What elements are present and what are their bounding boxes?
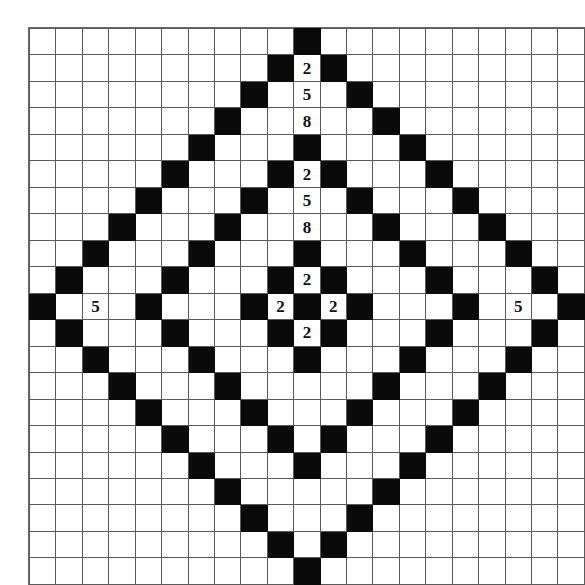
grid-cell-empty[interactable] — [294, 426, 320, 452]
grid-cell-empty[interactable] — [558, 55, 584, 81]
grid-cell-filled[interactable] — [320, 55, 346, 81]
grid-cell-empty[interactable] — [320, 240, 346, 266]
grid-cell-empty[interactable] — [532, 293, 558, 319]
grid-cell-empty[interactable] — [347, 531, 373, 557]
grid-cell-empty[interactable] — [426, 134, 452, 160]
grid-cell-empty[interactable] — [532, 240, 558, 266]
grid-cell-empty[interactable] — [30, 426, 56, 452]
grid-cell-empty[interactable] — [109, 161, 135, 187]
grid-cell-empty[interactable] — [214, 29, 240, 55]
grid-cell-filled[interactable] — [214, 373, 240, 399]
grid-cell-empty[interactable] — [320, 134, 346, 160]
grid-cell-empty[interactable] — [135, 531, 161, 557]
grid-cell-filled[interactable] — [399, 452, 425, 478]
grid-cell-empty[interactable] — [82, 426, 108, 452]
grid-cell-label[interactable]: 2 — [267, 293, 293, 319]
grid-cell-empty[interactable] — [267, 187, 293, 213]
grid-cell-filled[interactable] — [399, 346, 425, 372]
grid-cell-empty[interactable] — [56, 478, 82, 504]
grid-cell-empty[interactable] — [135, 558, 161, 584]
grid-cell-empty[interactable] — [452, 478, 478, 504]
grid-cell-empty[interactable] — [241, 531, 267, 557]
grid-cell-filled[interactable] — [267, 161, 293, 187]
grid-cell-empty[interactable] — [162, 558, 188, 584]
grid-cell-empty[interactable] — [479, 505, 505, 531]
grid-cell-empty[interactable] — [320, 187, 346, 213]
grid-cell-empty[interactable] — [162, 240, 188, 266]
grid-cell-empty[interactable] — [426, 478, 452, 504]
grid-cell-empty[interactable] — [267, 214, 293, 240]
grid-cell-empty[interactable] — [320, 29, 346, 55]
grid-cell-empty[interactable] — [82, 478, 108, 504]
grid-cell-empty[interactable] — [399, 478, 425, 504]
grid-cell-empty[interactable] — [162, 214, 188, 240]
grid-cell-empty[interactable] — [479, 55, 505, 81]
grid-cell-filled[interactable] — [347, 399, 373, 425]
grid-cell-filled[interactable] — [373, 373, 399, 399]
grid-cell-empty[interactable] — [82, 558, 108, 584]
grid-cell-empty[interactable] — [109, 55, 135, 81]
grid-cell-empty[interactable] — [320, 214, 346, 240]
grid-cell-empty[interactable] — [214, 505, 240, 531]
grid-cell-empty[interactable] — [558, 134, 584, 160]
grid-cell-label[interactable]: 5 — [294, 187, 320, 213]
grid-cell-empty[interactable] — [188, 558, 214, 584]
grid-cell-empty[interactable] — [426, 108, 452, 134]
grid-cell-empty[interactable] — [241, 267, 267, 293]
grid-cell-empty[interactable] — [82, 29, 108, 55]
grid-cell-empty[interactable] — [82, 81, 108, 107]
grid-cell-empty[interactable] — [532, 478, 558, 504]
grid-cell-empty[interactable] — [347, 108, 373, 134]
grid-cell-empty[interactable] — [56, 240, 82, 266]
grid-cell-filled[interactable] — [56, 320, 82, 346]
grid-cell-filled[interactable] — [162, 267, 188, 293]
grid-cell-empty[interactable] — [109, 187, 135, 213]
grid-cell-empty[interactable] — [399, 293, 425, 319]
grid-cell-empty[interactable] — [30, 320, 56, 346]
grid-cell-empty[interactable] — [241, 134, 267, 160]
grid-cell-empty[interactable] — [241, 108, 267, 134]
grid-cell-empty[interactable] — [452, 134, 478, 160]
grid-cell-empty[interactable] — [241, 214, 267, 240]
grid-cell-filled[interactable] — [135, 399, 161, 425]
grid-cell-empty[interactable] — [82, 108, 108, 134]
grid-cell-empty[interactable] — [82, 134, 108, 160]
grid-cell-empty[interactable] — [135, 478, 161, 504]
grid-cell-empty[interactable] — [347, 346, 373, 372]
grid-cell-empty[interactable] — [558, 452, 584, 478]
grid-cell-filled[interactable] — [267, 426, 293, 452]
grid-cell-empty[interactable] — [399, 187, 425, 213]
grid-cell-empty[interactable] — [505, 320, 531, 346]
grid-cell-empty[interactable] — [399, 81, 425, 107]
grid-cell-empty[interactable] — [135, 320, 161, 346]
grid-cell-label[interactable]: 5 — [294, 81, 320, 107]
grid-cell-label[interactable]: 5 — [505, 293, 531, 319]
grid-cell-empty[interactable] — [532, 161, 558, 187]
grid-cell-empty[interactable] — [82, 373, 108, 399]
grid-cell-empty[interactable] — [373, 452, 399, 478]
grid-cell-filled[interactable] — [347, 293, 373, 319]
grid-cell-empty[interactable] — [452, 426, 478, 452]
grid-cell-empty[interactable] — [399, 531, 425, 557]
grid-cell-empty[interactable] — [30, 373, 56, 399]
grid-cell-empty[interactable] — [479, 134, 505, 160]
grid-cell-empty[interactable] — [373, 320, 399, 346]
grid-cell-empty[interactable] — [320, 108, 346, 134]
grid-cell-empty[interactable] — [135, 81, 161, 107]
grid-cell-empty[interactable] — [135, 214, 161, 240]
grid-cell-empty[interactable] — [241, 161, 267, 187]
grid-cell-empty[interactable] — [82, 187, 108, 213]
grid-cell-filled[interactable] — [188, 452, 214, 478]
grid-cell-empty[interactable] — [426, 399, 452, 425]
grid-cell-empty[interactable] — [241, 320, 267, 346]
grid-cell-empty[interactable] — [320, 478, 346, 504]
grid-cell-empty[interactable] — [558, 505, 584, 531]
grid-cell-empty[interactable] — [532, 505, 558, 531]
grid-cell-filled[interactable] — [241, 399, 267, 425]
grid-cell-filled[interactable] — [294, 29, 320, 55]
grid-cell-filled[interactable] — [109, 373, 135, 399]
grid-cell-empty[interactable] — [479, 29, 505, 55]
grid-cell-filled[interactable] — [241, 81, 267, 107]
grid-cell-filled[interactable] — [426, 320, 452, 346]
grid-cell-filled[interactable] — [214, 108, 240, 134]
